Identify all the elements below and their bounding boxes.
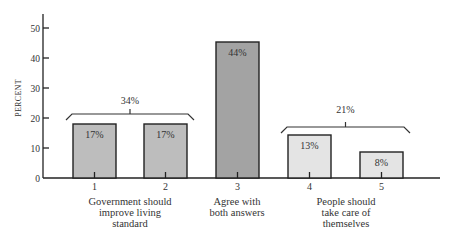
category-label: 4 [307, 181, 312, 192]
y-tick-label: 20 [31, 114, 41, 124]
group-bracket [281, 122, 410, 133]
bar-value-label: 13% [300, 140, 318, 151]
bar-value-label: 44% [228, 47, 246, 58]
category-label: 2 [163, 181, 168, 192]
y-ticks: 01020304050 [31, 24, 50, 184]
group-label-line: improve living [99, 207, 162, 218]
group-label-line: take care of [322, 207, 371, 218]
group-bracket [66, 109, 194, 120]
category-label: 5 [379, 181, 384, 192]
bar-value-label: 17% [85, 129, 103, 140]
bar-value-label: 8% [375, 157, 388, 168]
group-total-label: 21% [336, 104, 354, 115]
category-label: 3 [235, 181, 240, 192]
group-label-line: Agree with [214, 196, 262, 207]
group-labels: Government shouldimprove livingstandardA… [88, 196, 376, 229]
y-tick-label: 10 [31, 144, 41, 154]
y-axis-label: PERCENT [14, 79, 23, 117]
group-label-line: standard [112, 218, 148, 229]
group-label-line: People should [316, 196, 376, 207]
category-label: 1 [92, 181, 97, 192]
group-label-line: both answers [209, 207, 264, 218]
y-tick-label: 0 [35, 174, 40, 184]
bar-value-label: 17% [156, 129, 174, 140]
y-tick-label: 40 [31, 54, 41, 64]
bar-chart: 01020304050 PERCENT 34%21% 17%17%44%13%8… [0, 0, 451, 241]
bar-3 [216, 42, 259, 178]
y-tick-label: 30 [31, 84, 41, 94]
y-tick-label: 50 [31, 24, 41, 34]
group-label-line: themselves [323, 218, 370, 229]
group-total-label: 34% [121, 95, 139, 106]
group-label-line: Government should [88, 196, 172, 207]
category-labels: 12345 [92, 181, 384, 192]
